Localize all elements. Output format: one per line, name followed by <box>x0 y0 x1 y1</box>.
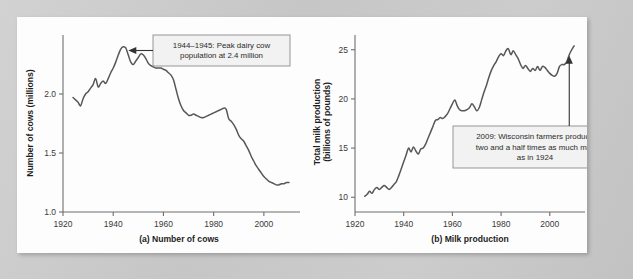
y-tick-label: 25 <box>339 45 349 55</box>
callout-line-2: two and a half times as much milk <box>476 143 587 152</box>
callout-line-1: 1944–1945: Peak dairy cow <box>173 41 271 50</box>
y-axis-ticks-b: 10152025 <box>339 45 355 203</box>
x-tick-label: 2000 <box>254 219 273 229</box>
chart-caption-b: (b) Milk production <box>431 234 508 244</box>
callout-line-3: as in 1924 <box>517 153 554 162</box>
x-tick-label: 1960 <box>154 219 173 229</box>
chart-milk-production: 1920194019601980200010152025Total milk p… <box>307 17 587 253</box>
x-tick-label: 1940 <box>394 219 413 229</box>
figure-panel: 192019401960198020001.01.52.0Number of c… <box>17 17 587 253</box>
y-axis-title-line1: Total milk production <box>312 79 322 166</box>
y-axis-title: Number of cows (millions) <box>25 69 35 177</box>
callout-line-2: population at 2.4 million <box>180 51 263 60</box>
leader-arrowhead <box>566 56 573 64</box>
x-tick-label: 1980 <box>492 219 511 229</box>
y-tick-label: 20 <box>339 94 349 104</box>
x-tick-label: 1960 <box>443 219 462 229</box>
leader-arrowhead <box>128 47 136 54</box>
y-axis-ticks-a: 1.01.52.0 <box>44 89 63 217</box>
y-tick-label: 10 <box>339 192 349 202</box>
x-tick-label: 1940 <box>104 219 123 229</box>
peak-cows-callout[interactable]: 1944–1945: Peak dairy cowpopulation at 2… <box>128 35 290 66</box>
y-tick-label: 1.5 <box>44 148 56 158</box>
callout-line-1: 2009: Wisconsin farmers produce <box>476 132 587 141</box>
milk-2009-callout[interactable]: 2009: Wisconsin farmers producetwo and a… <box>453 56 587 168</box>
chart-canvas-b: 1920194019601980200010152025Total milk p… <box>307 17 587 253</box>
x-tick-label: 1920 <box>54 219 73 229</box>
axes-b <box>355 35 585 212</box>
x-tick-label: 1920 <box>346 219 365 229</box>
data-series-line <box>73 47 289 185</box>
y-tick-label: 15 <box>339 143 349 153</box>
data-series-line <box>365 46 574 196</box>
chart-canvas-a: 192019401960198020001.01.52.0Number of c… <box>17 17 307 253</box>
y-tick-label: 1.0 <box>44 207 56 217</box>
chart-number-of-cows: 192019401960198020001.01.52.0Number of c… <box>17 17 307 253</box>
x-axis-ticks-b: 19201940196019802000 <box>346 212 560 229</box>
chart-caption-a: (a) Number of cows <box>139 234 219 244</box>
x-tick-label: 1980 <box>204 219 223 229</box>
x-tick-label: 2000 <box>540 219 559 229</box>
y-tick-label: 2.0 <box>44 89 56 99</box>
y-axis-title: Total milk production(billions of pounds… <box>312 79 332 166</box>
y-axis-title-line2: (billions of pounds) <box>322 82 332 162</box>
x-axis-ticks-a: 19201940196019802000 <box>54 212 274 229</box>
figure-charts: 192019401960198020001.01.52.0Number of c… <box>17 17 587 253</box>
